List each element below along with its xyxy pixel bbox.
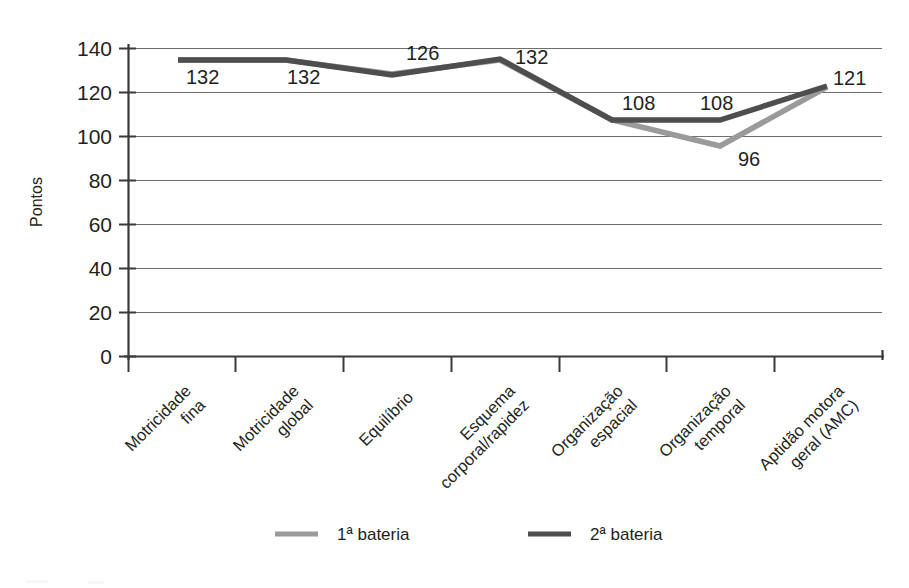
chart-legend: 1ª bateria 2ª bateria bbox=[275, 525, 663, 544]
legend-label-2a-bateria: 2ª bateria bbox=[590, 525, 663, 544]
scan-artifact bbox=[26, 580, 104, 584]
x-category-label-5: Organização temporal bbox=[655, 381, 748, 474]
y-tick-label-120: 120 bbox=[77, 81, 112, 104]
gridlines bbox=[128, 49, 882, 313]
cat-label-2-line-0: Equilíbrio bbox=[355, 388, 416, 449]
legend-item-2a-bateria[interactable]: 2ª bateria bbox=[528, 525, 663, 544]
value-label-5: 108 bbox=[700, 92, 733, 114]
value-label-0: 132 bbox=[186, 66, 219, 88]
legend-label-1a-bateria: 1ª bateria bbox=[337, 525, 410, 544]
y-tick-label-100: 100 bbox=[77, 125, 112, 148]
value-label-4: 108 bbox=[622, 92, 655, 114]
x-category-label-3: Esquema corporal/rapidez bbox=[422, 381, 533, 492]
scan-artifact-mark-1 bbox=[26, 580, 48, 583]
value-label-2: 126 bbox=[406, 42, 439, 64]
y-tick-label-140: 140 bbox=[77, 37, 112, 60]
y-tick-label-80: 80 bbox=[89, 169, 112, 192]
y-tick-label-0: 0 bbox=[100, 345, 112, 368]
x-category-label-2: Equilíbrio bbox=[355, 388, 416, 449]
x-category-label-1: Motricidade global bbox=[229, 381, 316, 468]
value-label-6: 96 bbox=[738, 148, 760, 170]
y-tick-label-20: 20 bbox=[89, 301, 112, 324]
x-category-label-0: Motricidade fina bbox=[121, 381, 209, 469]
y-tick-label-60: 60 bbox=[89, 213, 112, 236]
chart-canvas: 140 120 100 80 60 40 20 0 Pontos 132 bbox=[0, 0, 909, 588]
scan-artifact-mark-2 bbox=[88, 581, 104, 584]
x-tick-marks bbox=[129, 356, 775, 372]
legend-item-1a-bateria[interactable]: 1ª bateria bbox=[275, 525, 410, 544]
y-axis-title: Pontos bbox=[28, 177, 45, 227]
x-category-labels: Motricidade fina Motricidade global Equi… bbox=[121, 381, 862, 492]
line-chart-figure: 140 120 100 80 60 40 20 0 Pontos 132 bbox=[0, 0, 909, 588]
value-label-7: 121 bbox=[833, 67, 866, 89]
y-tick-label-40: 40 bbox=[89, 257, 112, 280]
value-label-1: 132 bbox=[287, 66, 320, 88]
y-tick-labels: 140 120 100 80 60 40 20 0 bbox=[77, 37, 112, 368]
x-category-label-6: Aptidão motora geral (AMC) bbox=[755, 381, 862, 488]
x-category-label-4: Organização espacial bbox=[547, 381, 640, 474]
value-label-3: 132 bbox=[515, 46, 548, 68]
